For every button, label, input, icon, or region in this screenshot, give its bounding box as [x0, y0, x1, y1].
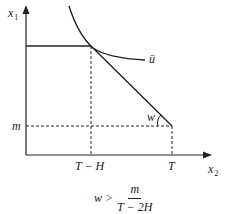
condition-formula: w > m T − 2H: [94, 182, 152, 214]
y-axis-arrow-icon: [23, 5, 30, 14]
u-bar-label: ū: [149, 53, 155, 65]
x-axis-arrow-icon: [203, 152, 212, 159]
tick-label-m: m: [12, 120, 21, 132]
condition-denominator: T − 2H: [117, 199, 152, 214]
x-axis-label: x2: [208, 163, 218, 178]
condition-fraction: m T − 2H: [117, 182, 152, 214]
y-axis-label: x1: [8, 7, 18, 22]
angle-arc: [158, 115, 161, 126]
condition-lhs: w >: [94, 191, 113, 206]
tick-label-t-minus-h: T − H: [75, 160, 104, 172]
angle-label-w: w: [147, 111, 155, 123]
condition-numerator: m: [128, 182, 141, 199]
tick-label-t: T: [168, 160, 175, 172]
descending-line: [91, 46, 172, 126]
u-bar-curve: [69, 6, 145, 60]
